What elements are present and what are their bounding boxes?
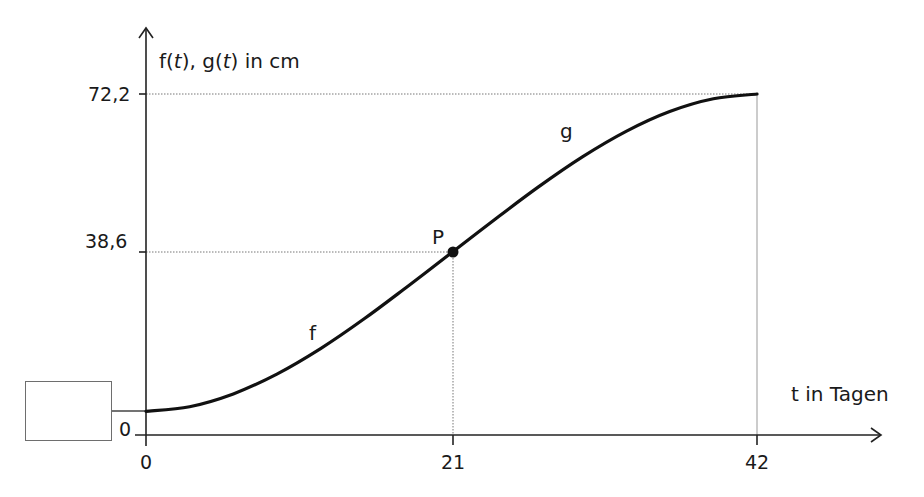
y-axis-label: f(t), g(t) in cm (159, 50, 300, 72)
x-tick-label-0: 0 (140, 451, 152, 473)
point-p-label: P (432, 226, 444, 248)
y-axis-label-part: f( (159, 49, 174, 73)
answer-box-initial-value (25, 381, 112, 441)
y-tick-label-72-2: 72,2 (88, 83, 130, 105)
x-axis-label: t in Tagen (791, 383, 889, 405)
y-tick-label-0: 0 (119, 418, 131, 440)
curve-f (146, 253, 452, 412)
curve-f-label: f (309, 322, 316, 344)
point-p-marker (448, 247, 459, 258)
y-tick-label-38-6: 38,6 (85, 230, 127, 252)
y-axis-label-part: ), g( (182, 49, 223, 73)
curve-g-label: g (560, 120, 573, 142)
x-tick-label-21: 21 (441, 451, 465, 473)
curve-g (452, 94, 758, 253)
y-axis-label-var: t (174, 49, 182, 73)
y-axis-label-var: t (223, 49, 231, 73)
chart-canvas (0, 0, 924, 497)
y-axis-label-part: ) in cm (231, 49, 300, 73)
x-tick-label-42: 42 (745, 451, 769, 473)
